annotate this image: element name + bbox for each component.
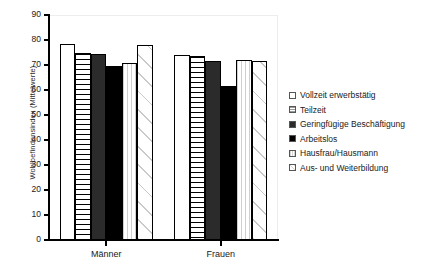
legend-item-label: Hausfrau/Hausmann (300, 149, 378, 158)
bar (106, 66, 122, 240)
y-tick-label-50: 50 (1, 110, 41, 119)
legend-swatch-icon (289, 92, 296, 99)
bar (236, 60, 252, 240)
x-tick-Frauen (220, 241, 222, 246)
legend-item[interactable]: Hausfrau/Hausmann (289, 146, 405, 161)
y-tick-label-30: 30 (1, 160, 41, 169)
y-tick-label-90: 90 (1, 10, 41, 19)
legend-swatch-icon (289, 150, 296, 157)
bar (75, 53, 91, 241)
bar (60, 44, 76, 240)
bar (221, 86, 237, 240)
y-tick-label-40: 40 (1, 135, 41, 144)
y-tick-label-0: 0 (1, 235, 41, 244)
bar (190, 56, 206, 240)
bar-group-container (49, 15, 278, 240)
bar (91, 54, 107, 240)
legend-item[interactable]: Aus- und Weiterbildung (289, 161, 405, 176)
legend-item-label: Arbeitslos (300, 135, 337, 144)
legend: Vollzeit erwerbstätigTeilzeitGeringfügig… (289, 88, 405, 175)
legend-item[interactable]: Arbeitslos (289, 132, 405, 147)
legend-item[interactable]: Vollzeit erwerbstätig (289, 88, 405, 103)
legend-swatch-icon (289, 106, 296, 113)
y-tick-label-70: 70 (1, 60, 41, 69)
bar (137, 45, 153, 240)
y-tick-label-10: 10 (1, 210, 41, 219)
x-axis-label-frauen: Frauen (176, 249, 266, 259)
y-tick-label-80: 80 (1, 35, 41, 44)
chart-figure: Wohlbefindensindex (Mittelwerte) 0102030… (0, 0, 448, 271)
legend-item[interactable]: Geringfügige Beschäftigung (289, 117, 405, 132)
legend-item[interactable]: Teilzeit (289, 103, 405, 118)
legend-swatch-icon (289, 164, 296, 171)
legend-swatch-icon (289, 121, 296, 128)
legend-item-label: Vollzeit erwerbstätig (300, 91, 376, 100)
bar (205, 61, 221, 240)
y-tick-label-60: 60 (1, 85, 41, 94)
bar (252, 61, 268, 240)
legend-item-label: Aus- und Weiterbildung (300, 164, 388, 173)
legend-item-label: Teilzeit (300, 106, 326, 115)
bar (122, 63, 138, 241)
legend-swatch-icon (289, 135, 296, 142)
x-axis-label-männer: Männer (61, 249, 151, 259)
legend-item-label: Geringfügige Beschäftigung (300, 120, 405, 129)
x-tick-Männer (105, 241, 107, 246)
y-tick-label-20: 20 (1, 185, 41, 194)
bar (174, 55, 190, 240)
